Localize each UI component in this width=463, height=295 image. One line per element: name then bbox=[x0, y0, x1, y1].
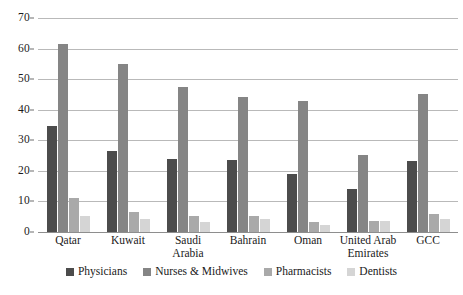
legend-label: Dentists bbox=[359, 266, 397, 278]
bar bbox=[418, 94, 428, 232]
bar bbox=[69, 198, 79, 232]
bar bbox=[58, 44, 68, 232]
bar bbox=[429, 214, 439, 232]
x-axis-tick-label: Oman bbox=[278, 234, 338, 259]
legend-swatch-icon bbox=[264, 268, 272, 276]
y-axis-tick-label: 30 bbox=[18, 135, 30, 147]
bar bbox=[440, 219, 450, 232]
bar bbox=[47, 126, 57, 232]
bar bbox=[347, 189, 357, 232]
bar-cluster bbox=[158, 18, 218, 232]
bar bbox=[380, 221, 390, 232]
bar bbox=[369, 221, 379, 232]
axis-baseline bbox=[38, 232, 458, 233]
bar bbox=[358, 155, 368, 232]
y-axis-tick-mark bbox=[30, 140, 34, 141]
y-axis-tick-label: 40 bbox=[18, 104, 30, 116]
y-axis-tick-mark bbox=[30, 109, 34, 110]
plot-area bbox=[38, 18, 458, 232]
x-axis-tick-label: GCC bbox=[398, 234, 458, 259]
y-axis-tick-mark bbox=[30, 79, 34, 80]
legend-swatch-icon bbox=[347, 268, 355, 276]
bar bbox=[189, 216, 199, 232]
bar-cluster bbox=[398, 18, 458, 232]
bar bbox=[287, 174, 297, 232]
chart-legend: PhysiciansNurses & MidwivesPharmacistsDe… bbox=[0, 266, 463, 278]
legend-label: Physicians bbox=[78, 266, 127, 278]
bar bbox=[249, 216, 259, 232]
legend-label: Pharmacists bbox=[276, 266, 332, 278]
bar-chart: 010203040506070 QatarKuwaitSaudi ArabiaB… bbox=[0, 0, 463, 295]
bar bbox=[178, 87, 188, 232]
x-axis-tick-label: Bahrain bbox=[218, 234, 278, 259]
bar bbox=[200, 222, 210, 232]
legend-label: Nurses & Midwives bbox=[155, 266, 248, 278]
y-axis: 010203040506070 bbox=[0, 18, 34, 232]
bar bbox=[407, 161, 417, 232]
x-axis-tick-label: United Arab Emirates bbox=[338, 234, 398, 259]
bar bbox=[107, 151, 117, 232]
y-axis-tick-mark bbox=[30, 201, 34, 202]
bar bbox=[140, 219, 150, 232]
bar-clusters bbox=[38, 18, 458, 232]
y-axis-tick-mark bbox=[30, 170, 34, 171]
bar bbox=[260, 219, 270, 232]
legend-item[interactable]: Physicians bbox=[66, 266, 127, 278]
y-axis-tick-label: 10 bbox=[18, 196, 30, 208]
bar bbox=[227, 160, 237, 232]
legend-item[interactable]: Nurses & Midwives bbox=[143, 266, 248, 278]
legend-swatch-icon bbox=[143, 268, 151, 276]
legend-item[interactable]: Dentists bbox=[347, 266, 397, 278]
bar-cluster bbox=[98, 18, 158, 232]
x-axis-tick-label: Saudi Arabia bbox=[158, 234, 218, 259]
y-axis-tick-mark bbox=[30, 48, 34, 49]
x-axis-tick-label: Qatar bbox=[38, 234, 98, 259]
bar bbox=[167, 159, 177, 232]
legend-item[interactable]: Pharmacists bbox=[264, 266, 332, 278]
legend-swatch-icon bbox=[66, 268, 74, 276]
y-axis-tick-label: 50 bbox=[18, 73, 30, 85]
bar bbox=[238, 97, 248, 232]
bar bbox=[118, 64, 128, 232]
bar-cluster bbox=[338, 18, 398, 232]
y-axis-tick-label: 60 bbox=[18, 43, 30, 55]
y-axis-tick-mark bbox=[30, 18, 34, 19]
y-axis-tick-label: 70 bbox=[18, 12, 30, 24]
y-axis-tick-label: 20 bbox=[18, 165, 30, 177]
bar bbox=[298, 101, 308, 232]
x-axis-tick-label: Kuwait bbox=[98, 234, 158, 259]
bar bbox=[320, 225, 330, 232]
bar bbox=[129, 212, 139, 232]
x-axis: QatarKuwaitSaudi ArabiaBahrainOmanUnited… bbox=[38, 234, 458, 259]
y-axis-tick-mark bbox=[30, 232, 34, 233]
bar-cluster bbox=[38, 18, 98, 232]
bar-cluster bbox=[278, 18, 338, 232]
bar-cluster bbox=[218, 18, 278, 232]
bar bbox=[309, 222, 319, 232]
bar bbox=[80, 216, 90, 232]
